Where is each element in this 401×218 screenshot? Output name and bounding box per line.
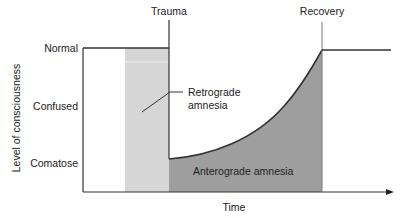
level-normal-label: Normal <box>44 42 78 54</box>
amnesia-consciousness-diagram: Trauma Recovery Normal Confused Comatose… <box>0 0 401 218</box>
trauma-label: Trauma <box>151 5 187 17</box>
y-axis-label: Level of consciousness <box>10 64 22 173</box>
x-axis-arrow-icon <box>386 189 394 195</box>
retrograde-label-line1: Retrograde <box>188 86 241 98</box>
retrograde-label-line2: amnesia <box>188 99 228 111</box>
x-axis-label: Time <box>223 201 246 213</box>
recovery-label: Recovery <box>300 5 345 17</box>
retrograde-region <box>125 48 169 192</box>
anterograde-label: Anterograde amnesia <box>193 165 294 177</box>
level-confused-label: Confused <box>33 100 78 112</box>
level-comatose-label: Comatose <box>30 157 78 169</box>
